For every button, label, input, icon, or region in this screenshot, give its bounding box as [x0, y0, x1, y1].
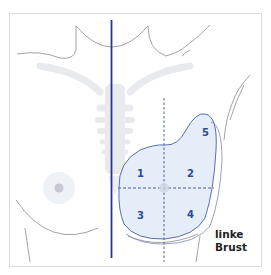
quadrant-label-4: 4: [187, 209, 194, 220]
quadrant-label-2: 2: [187, 168, 194, 179]
side-label-line2: Brust: [215, 241, 247, 254]
quadrant-label-5: 5: [202, 127, 209, 138]
side-label-line1: linke: [215, 228, 247, 241]
left-nipple: [159, 183, 169, 193]
sternum-silhouette: [105, 84, 125, 174]
quadrant-label-3: 3: [137, 210, 144, 221]
quadrant-label-1: 1: [137, 168, 144, 179]
right-nipple: [55, 184, 64, 193]
side-label: linke Brust: [215, 228, 247, 254]
diagram-canvas: 1 2 3 4 5 linke Brust: [0, 0, 271, 275]
